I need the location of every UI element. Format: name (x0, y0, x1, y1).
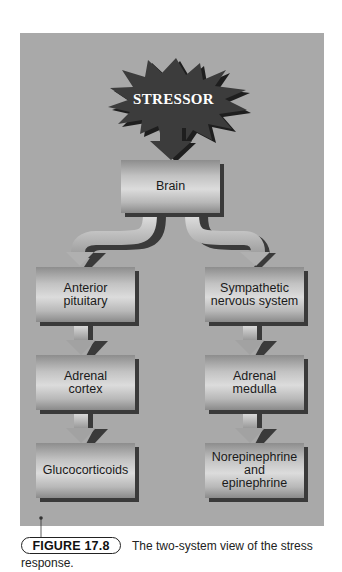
box-label: Sympathetic nervous system (211, 282, 299, 308)
branch-arrow-right-icon (192, 213, 276, 267)
stressor-label: STRESSOR (131, 91, 216, 108)
down-arrow-right-2-icon (235, 412, 277, 444)
box-label: Glucocorticoids (43, 464, 128, 477)
box-label: Brain (156, 180, 185, 193)
box-brain: Brain (121, 160, 220, 213)
caption-leader-line (39, 516, 43, 538)
stressor-burst-icon (108, 58, 251, 162)
caption-text: The two-system view of the stress (132, 539, 313, 553)
down-arrow-right-1-icon (235, 324, 277, 356)
box-adrenal-medulla: Adrenal medulla (205, 355, 304, 410)
down-arrow-left-1-icon (66, 324, 108, 356)
box-sympathetic-nervous-system: Sympathetic nervous system (205, 267, 304, 322)
caption-text-continued: response. (21, 556, 74, 570)
box-label: Adrenal medulla (233, 370, 277, 396)
box-label: Norepinephrine and epinephrine (212, 451, 297, 490)
box-glucocorticoids: Glucocorticoids (36, 443, 135, 498)
figure-caption: FIGURE 17.8 The two-system view of the s… (21, 537, 313, 554)
box-label: Adrenal cortex (64, 370, 107, 396)
box-norepinephrine-epinephrine: Norepinephrine and epinephrine (205, 443, 304, 498)
box-adrenal-cortex: Adrenal cortex (36, 355, 135, 410)
figure-label: FIGURE 17.8 (21, 537, 121, 554)
box-label: Anterior pituitary (64, 282, 108, 308)
branch-arrow-left-icon (66, 213, 158, 267)
box-anterior-pituitary: Anterior pituitary (36, 267, 135, 322)
down-arrow-left-2-icon (66, 412, 108, 444)
